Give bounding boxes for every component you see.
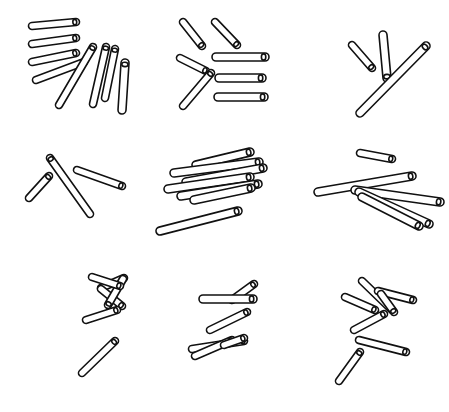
panel-3 [299, 0, 449, 137]
panel-9 [299, 275, 449, 412]
panel-grid [0, 0, 449, 412]
panel-1 [0, 0, 150, 137]
panel-6 [299, 137, 449, 274]
panel-7 [0, 275, 150, 412]
panel-5 [150, 137, 300, 274]
panel-2 [150, 0, 300, 137]
panel-8 [150, 275, 300, 412]
figure-canvas [0, 0, 449, 412]
panel-4 [0, 137, 150, 274]
